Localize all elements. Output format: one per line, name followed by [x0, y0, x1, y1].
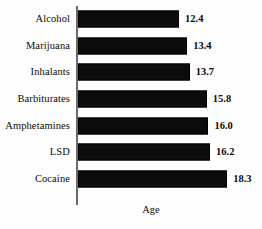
bar: [78, 91, 207, 108]
category-label: Cocaine: [0, 174, 70, 185]
bar: [78, 170, 227, 187]
value-label: 15.8: [213, 94, 231, 105]
bar-row: Cocaine18.3: [0, 166, 262, 193]
bar-row: LSD16.2: [0, 139, 262, 166]
bar-row: Inhalants13.7: [0, 59, 262, 86]
bar: [78, 144, 210, 161]
bar: [78, 64, 190, 81]
value-label: 12.4: [185, 14, 203, 25]
bar-row: Alcohol12.4: [0, 6, 262, 33]
value-label: 18.3: [233, 174, 251, 185]
category-label: Barbiturates: [0, 94, 70, 105]
x-axis-title-text: Age: [142, 204, 160, 215]
value-label: 16.2: [216, 147, 234, 158]
bar-row: Amphetamines16.0: [0, 112, 262, 139]
bar: [78, 37, 187, 54]
category-label: Amphetamines: [0, 120, 70, 131]
category-label: Marijuana: [0, 41, 70, 52]
category-label: Alcohol: [0, 14, 70, 25]
bar-chart: Alcohol12.4Marijuana13.4Inhalants13.7Bar…: [0, 0, 262, 229]
bar: [78, 11, 179, 28]
bar-row: Marijuana13.4: [0, 33, 262, 60]
bar-row: Barbiturates15.8: [0, 86, 262, 113]
plot-area: Alcohol12.4Marijuana13.4Inhalants13.7Bar…: [0, 0, 262, 200]
bar: [78, 117, 208, 134]
category-label: LSD: [0, 147, 70, 158]
x-axis-title: Age: [0, 205, 262, 216]
value-label: 13.7: [196, 67, 214, 78]
value-label: 13.4: [193, 41, 211, 52]
value-label: 16.0: [214, 120, 232, 131]
category-label: Inhalants: [0, 67, 70, 78]
